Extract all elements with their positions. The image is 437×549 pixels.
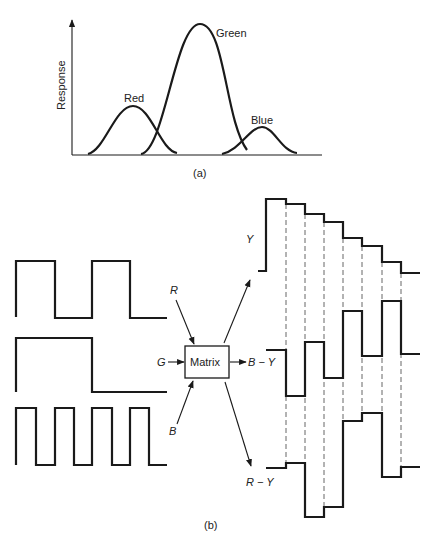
r-input-label: R xyxy=(170,284,178,296)
blue-response-curve xyxy=(222,127,297,154)
y-output-waveform xyxy=(258,199,420,273)
blue-curve-label: Blue xyxy=(251,114,273,126)
y-output-label: Y xyxy=(246,233,254,245)
b-input-label: B xyxy=(169,425,176,437)
matrix-label: Matrix xyxy=(190,356,220,368)
b-input-arrow xyxy=(177,381,193,424)
b-y-output-waveform xyxy=(266,301,420,396)
r-input-waveform xyxy=(16,261,167,318)
b-y-output-label: B − Y xyxy=(248,356,276,368)
r-y-output-label: R − Y xyxy=(246,476,274,488)
b-input-waveform xyxy=(16,408,167,465)
spectral-response-chart: Red Green Blue Response (a) xyxy=(55,20,322,179)
matrix-encoding-diagram: R G B Matrix Y B − Y R − Y (b) xyxy=(16,199,420,531)
y-axis-label: Response xyxy=(55,60,67,110)
y-output-arrow xyxy=(224,280,250,343)
r-input-arrow xyxy=(176,300,194,344)
g-input-waveform xyxy=(16,338,167,392)
red-curve-label: Red xyxy=(124,92,144,104)
panel-b-caption: (b) xyxy=(204,519,217,531)
green-curve-label: Green xyxy=(216,27,247,39)
g-input-label: G xyxy=(157,356,166,368)
diagram-canvas: Red Green Blue Response (a) R G B Matrix… xyxy=(0,0,437,549)
r-y-output-arrow xyxy=(225,382,251,466)
green-response-curve xyxy=(141,24,247,154)
panel-a-caption: (a) xyxy=(193,167,206,179)
r-y-output-waveform xyxy=(266,413,420,517)
